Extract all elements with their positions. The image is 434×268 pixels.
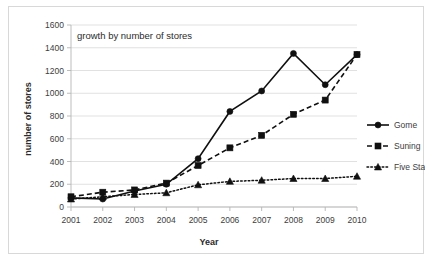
y-tick-label: 1400 <box>45 43 64 53</box>
y-tick-label: 800 <box>50 111 64 121</box>
data-point <box>354 52 360 58</box>
data-point <box>259 132 265 138</box>
chart-legend: GomeSuningFive Star <box>367 120 425 172</box>
legend-item-five-star[interactable]: Five Star <box>367 162 425 172</box>
y-tick-label: 200 <box>50 179 64 189</box>
chart-container: 02004006008001000120014001600 2001200220… <box>8 6 424 254</box>
x-tick-label: 2001 <box>62 215 81 225</box>
data-point <box>163 180 169 186</box>
legend-label: Five Star <box>394 162 425 172</box>
data-point <box>290 50 296 56</box>
data-point <box>322 82 328 88</box>
y-tick-label: 600 <box>50 134 64 144</box>
x-axis-title: Year <box>199 237 219 247</box>
legend-item-gome[interactable]: Gome <box>367 120 417 130</box>
y-tick-label: 1600 <box>45 20 64 30</box>
y-axis-ticks: 02004006008001000120014001600 <box>45 20 71 212</box>
line-chart: 02004006008001000120014001600 2001200220… <box>9 7 425 255</box>
x-tick-label: 2003 <box>125 215 144 225</box>
data-point <box>259 88 265 94</box>
y-tick-label: 400 <box>50 157 64 167</box>
series-gome <box>68 50 360 202</box>
legend-swatch-marker <box>375 122 381 128</box>
series-line-suning <box>71 55 357 197</box>
chart-title: growth by number of stores <box>77 30 192 41</box>
grid-lines <box>71 25 357 207</box>
data-point <box>227 108 233 114</box>
series-line-gome <box>71 53 357 199</box>
data-point <box>322 97 328 103</box>
data-point <box>195 162 201 168</box>
data-series-group <box>67 50 360 202</box>
x-tick-label: 2010 <box>348 215 367 225</box>
legend-label: Gome <box>394 120 417 130</box>
x-tick-label: 2004 <box>157 215 176 225</box>
data-point <box>227 145 233 151</box>
x-tick-label: 2006 <box>220 215 239 225</box>
y-tick-label: 0 <box>59 202 64 212</box>
chart-plot-wrapper: 02004006008001000120014001600 2001200220… <box>9 7 425 255</box>
legend-item-suning[interactable]: Suning <box>367 141 421 151</box>
x-tick-label: 2007 <box>252 215 271 225</box>
series-line-five-star <box>71 176 357 199</box>
y-tick-label: 1000 <box>45 88 64 98</box>
legend-label: Suning <box>394 141 421 151</box>
data-point <box>195 156 201 162</box>
series-suning <box>68 52 360 200</box>
y-tick-label: 1200 <box>45 66 64 76</box>
data-point <box>290 111 296 117</box>
x-tick-label: 2009 <box>316 215 335 225</box>
x-tick-label: 2005 <box>189 215 208 225</box>
legend-swatch-marker <box>375 143 381 149</box>
x-tick-label: 2002 <box>93 215 112 225</box>
x-tick-label: 2008 <box>284 215 303 225</box>
x-axis-ticks: 2001200220032004200520062007200820092010 <box>62 207 367 225</box>
y-axis-title: number of stores <box>23 82 33 156</box>
